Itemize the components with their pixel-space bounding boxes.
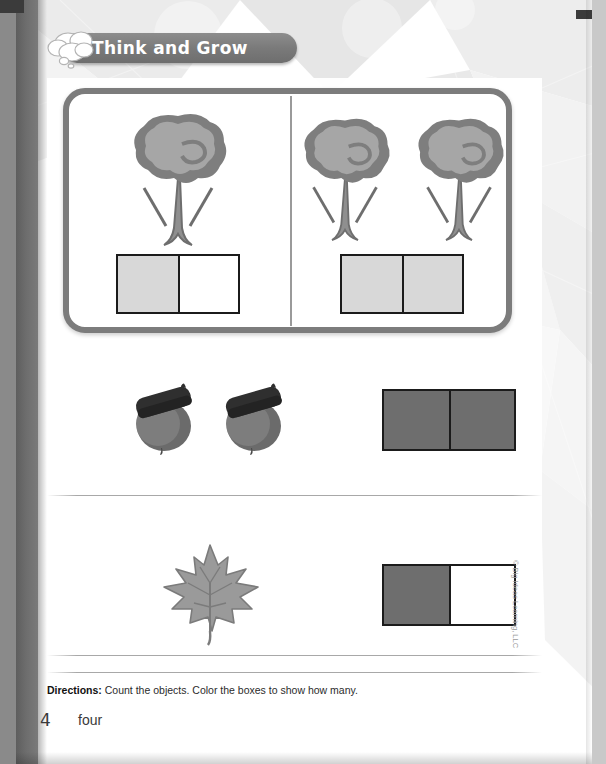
tree-icon: [295, 108, 395, 252]
example-panel-divider: [290, 96, 292, 326]
directions: Directions: Count the objects. Color the…: [47, 684, 517, 696]
worksheet-page: Think and Grow: [0, 0, 606, 764]
page-right-edge: [592, 0, 606, 764]
book-binding-strip: [16, 0, 38, 764]
box-cell[interactable]: [384, 391, 449, 449]
box-cell[interactable]: [384, 566, 449, 624]
box-cell[interactable]: [449, 391, 514, 449]
copyright-notice: © Big Ideas Learning, LLC: [511, 560, 520, 670]
footer-rule: [47, 672, 542, 673]
page-title: Think and Grow: [92, 36, 302, 61]
row-divider: [47, 495, 542, 496]
page-number: 4: [40, 708, 70, 732]
page-number-word: four: [78, 709, 102, 731]
example-left-objects: [70, 102, 285, 252]
box-cell: [402, 256, 462, 312]
row-divider: [47, 655, 542, 656]
page-left-edge: [0, 0, 16, 764]
box-cell[interactable]: [449, 566, 514, 624]
example-right-objects: [297, 102, 507, 252]
page-bottom-shadow: [16, 752, 592, 764]
example-left-box: [116, 254, 240, 314]
example-right: [297, 94, 507, 326]
box-cell: [118, 256, 178, 312]
box-cell: [178, 256, 238, 312]
problem-row-leaf: [40, 535, 552, 655]
acorn-icon: [218, 380, 292, 460]
example-right-box: [340, 254, 464, 314]
box-cell: [342, 256, 402, 312]
directions-label: Directions:: [47, 684, 102, 696]
directions-text: Count the objects. Color the boxes to sh…: [105, 684, 358, 696]
top-bar-left-fragment: [0, 0, 24, 13]
problem-row-acorns: [40, 360, 552, 480]
leaf-icon: [154, 539, 266, 651]
example-left: [70, 94, 285, 326]
answer-box-leaf[interactable]: [382, 564, 516, 626]
tree-icon: [409, 108, 509, 252]
leaf-group: [85, 535, 335, 655]
acorn-group: [85, 360, 335, 480]
acorn-icon: [128, 380, 202, 460]
tree-icon: [124, 108, 232, 252]
answer-box-acorns[interactable]: [382, 389, 516, 451]
